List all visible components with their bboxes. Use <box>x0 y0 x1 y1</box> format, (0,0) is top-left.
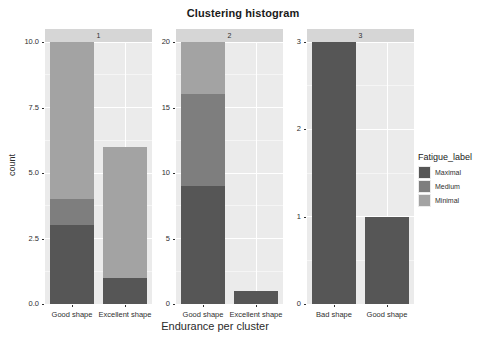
facet-panel-3: 3 <box>307 29 414 304</box>
y-axis-tick-mark <box>173 42 175 43</box>
plot-area <box>307 42 414 304</box>
bar-segment-medium[interactable] <box>50 199 94 225</box>
bar-stack[interactable] <box>365 217 409 304</box>
plot-area <box>45 42 152 304</box>
chart-canvas: Clustering histogram count Endurance per… <box>0 0 486 344</box>
legend-item[interactable]: Minimal <box>418 194 472 207</box>
y-axis-tick-label: 0 <box>273 299 301 308</box>
legend-key-background <box>418 194 431 207</box>
y-axis-tick-label: 10.0 <box>11 37 39 46</box>
legend-color-swatch <box>419 167 430 178</box>
y-axis-tick-label: 5.0 <box>11 168 39 177</box>
x-axis-tick-label: Excellent shape <box>91 310 159 319</box>
bar-segment-maximal[interactable] <box>103 278 147 304</box>
x-axis-tick-mark <box>72 305 73 307</box>
y-axis-tick-label: 1 <box>273 212 301 221</box>
bar-stack[interactable] <box>234 291 278 304</box>
x-axis-tick-mark <box>387 305 388 307</box>
y-axis-tick-mark <box>42 304 44 305</box>
y-axis-tick-mark <box>304 42 306 43</box>
bar-segment-minimal[interactable] <box>103 147 147 278</box>
legend-title: Fatigue_label <box>418 152 472 162</box>
y-axis-tick-mark <box>42 239 44 240</box>
plot-area <box>176 42 283 304</box>
legend-key-background <box>418 166 431 179</box>
x-axis-tick-label: Good shape <box>353 310 421 319</box>
facet-panel-2: 2 <box>176 29 283 304</box>
x-axis-tick-mark <box>203 305 204 307</box>
bar-segment-maximal[interactable] <box>365 217 409 304</box>
y-axis-tick-label: 20 <box>142 37 170 46</box>
y-axis-tick-mark <box>42 42 44 43</box>
y-axis-tick-mark <box>304 304 306 305</box>
facet-strip-label: 2 <box>176 29 283 42</box>
bar-stack[interactable] <box>50 42 94 304</box>
bar-segment-medium[interactable] <box>181 94 225 186</box>
legend-item[interactable]: Medium <box>418 180 472 193</box>
y-axis-tick-label: 10 <box>142 168 170 177</box>
y-axis-tick-label: 0 <box>142 299 170 308</box>
y-axis-tick-mark <box>173 173 175 174</box>
bar-stack[interactable] <box>103 147 147 304</box>
y-axis-tick-label: 15 <box>142 103 170 112</box>
gridline-vertical <box>256 42 257 304</box>
y-axis-tick-mark <box>173 239 175 240</box>
x-axis-tick-mark <box>125 305 126 307</box>
y-axis-tick-label: 5 <box>142 234 170 243</box>
legend-item-label: Minimal <box>435 197 459 204</box>
y-axis-tick-label: 2 <box>273 124 301 133</box>
bar-segment-maximal[interactable] <box>181 186 225 304</box>
legend-item-label: Medium <box>435 183 460 190</box>
legend-key-background <box>418 180 431 193</box>
facet-strip-label: 1 <box>45 29 152 42</box>
bar-stack[interactable] <box>312 42 356 304</box>
y-axis-tick-label: 2.5 <box>11 234 39 243</box>
bar-segment-maximal[interactable] <box>312 42 356 304</box>
bar-segment-minimal[interactable] <box>181 42 225 94</box>
y-axis-tick-mark <box>304 217 306 218</box>
legend: Fatigue_label MaximalMediumMinimal <box>418 152 472 208</box>
y-axis-tick-mark <box>304 129 306 130</box>
y-axis-title: count <box>7 135 17 195</box>
x-axis-tick-mark <box>334 305 335 307</box>
legend-color-swatch <box>419 181 430 192</box>
y-axis-tick-mark <box>173 108 175 109</box>
legend-items: MaximalMediumMinimal <box>418 166 472 207</box>
y-axis-tick-label: 3 <box>273 37 301 46</box>
x-axis-tick-label: Excellent shape <box>222 310 290 319</box>
bar-stack[interactable] <box>181 42 225 304</box>
y-axis-tick-label: 0.0 <box>11 299 39 308</box>
y-axis-tick-label: 7.5 <box>11 103 39 112</box>
y-axis-tick-mark <box>42 173 44 174</box>
bar-segment-maximal[interactable] <box>50 225 94 304</box>
x-axis-tick-mark <box>256 305 257 307</box>
y-axis-tick-mark <box>173 304 175 305</box>
legend-item-label: Maximal <box>435 169 461 176</box>
chart-title: Clustering histogram <box>0 7 486 19</box>
x-axis-title: Endurance per cluster <box>40 320 390 332</box>
facet-strip-label: 3 <box>307 29 414 42</box>
bar-segment-minimal[interactable] <box>50 42 94 199</box>
legend-color-swatch <box>419 195 430 206</box>
y-axis-tick-mark <box>42 108 44 109</box>
facet-panel-1: 1 <box>45 29 152 304</box>
legend-item[interactable]: Maximal <box>418 166 472 179</box>
bar-segment-maximal[interactable] <box>234 291 278 304</box>
